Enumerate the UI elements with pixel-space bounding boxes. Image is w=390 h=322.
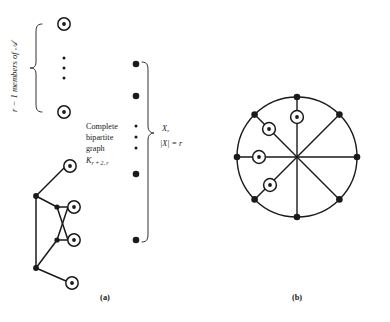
panel-b-caption: (b) xyxy=(292,293,302,302)
set-node xyxy=(133,93,140,100)
circled-node xyxy=(66,277,78,289)
circled-node xyxy=(291,111,304,124)
panel-b: (b) xyxy=(234,94,361,302)
left-brace-label-group: r − 1 members of 𝒜 xyxy=(9,39,19,112)
combinatorics-figure: r − 1 members of 𝒜 xyxy=(0,0,390,322)
circled-node xyxy=(58,106,70,118)
panel-a-caption: (a) xyxy=(100,293,110,302)
rim-node xyxy=(336,111,343,118)
set-x-ellipsis xyxy=(135,125,138,150)
panel-a: r − 1 members of 𝒜 xyxy=(9,18,183,302)
circled-node xyxy=(64,160,76,172)
circled-node xyxy=(264,179,277,192)
set-x-label-group: X, |X| = r xyxy=(160,124,183,148)
left-brace-label: r − 1 members of 𝒜 xyxy=(9,39,19,112)
set-x-nodes xyxy=(133,61,140,244)
graph-node xyxy=(33,193,39,199)
bipartite-graph-edges xyxy=(36,168,68,281)
rim-node xyxy=(354,154,361,161)
center-graph-symbol-group: Kr + 2, r xyxy=(85,156,109,166)
circled-node xyxy=(68,201,80,213)
graph-node xyxy=(54,237,59,242)
center-label-line3: graph xyxy=(86,144,105,153)
set-x-brace xyxy=(142,62,154,242)
rim-node xyxy=(294,214,301,221)
circled-node xyxy=(68,234,80,246)
set-node xyxy=(133,171,140,178)
left-column-ellipsis xyxy=(63,57,66,80)
set-x-label: X, xyxy=(161,124,169,133)
rim-node xyxy=(251,111,258,118)
rim-node xyxy=(251,196,258,203)
set-node xyxy=(133,237,140,244)
figure-container: r − 1 members of 𝒜 xyxy=(0,0,390,322)
rim-node xyxy=(336,196,343,203)
set-node xyxy=(133,61,140,68)
center-graph-subscript: r + 2, r xyxy=(91,160,109,166)
center-label-line1: Complete xyxy=(86,122,118,131)
set-x-size-label: |X| = r xyxy=(160,139,183,148)
center-text-block: Complete bipartite graph Kr + 2, r xyxy=(85,122,118,166)
circled-node xyxy=(58,18,70,30)
wheel-circled-nodes xyxy=(253,111,304,192)
graph-node xyxy=(33,265,39,271)
rim-node xyxy=(234,154,241,161)
circled-node xyxy=(263,123,276,136)
center-label-line2: bipartite xyxy=(86,133,114,142)
rim-node xyxy=(294,94,301,101)
graph-node xyxy=(54,204,59,209)
left-curly-brace xyxy=(30,24,42,112)
circled-node xyxy=(253,151,266,164)
